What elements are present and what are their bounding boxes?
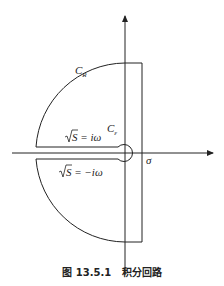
figure-caption: 图 13.5.1 积分回路 <box>62 266 162 278</box>
label-lower-branch: S = −iω <box>59 165 103 178</box>
label-sigma: σ <box>146 154 152 166</box>
label-upper-branch: S = iω <box>65 130 101 143</box>
svg-text:S = −iω: S = −iω <box>66 166 103 178</box>
svg-text:S = iω: S = iω <box>72 131 101 143</box>
label-inner-circle: Cε <box>107 122 117 137</box>
contour-diagram: CR Cε S = iω S = −iω σ 图 13.5.1 积分回路 <box>0 0 224 286</box>
